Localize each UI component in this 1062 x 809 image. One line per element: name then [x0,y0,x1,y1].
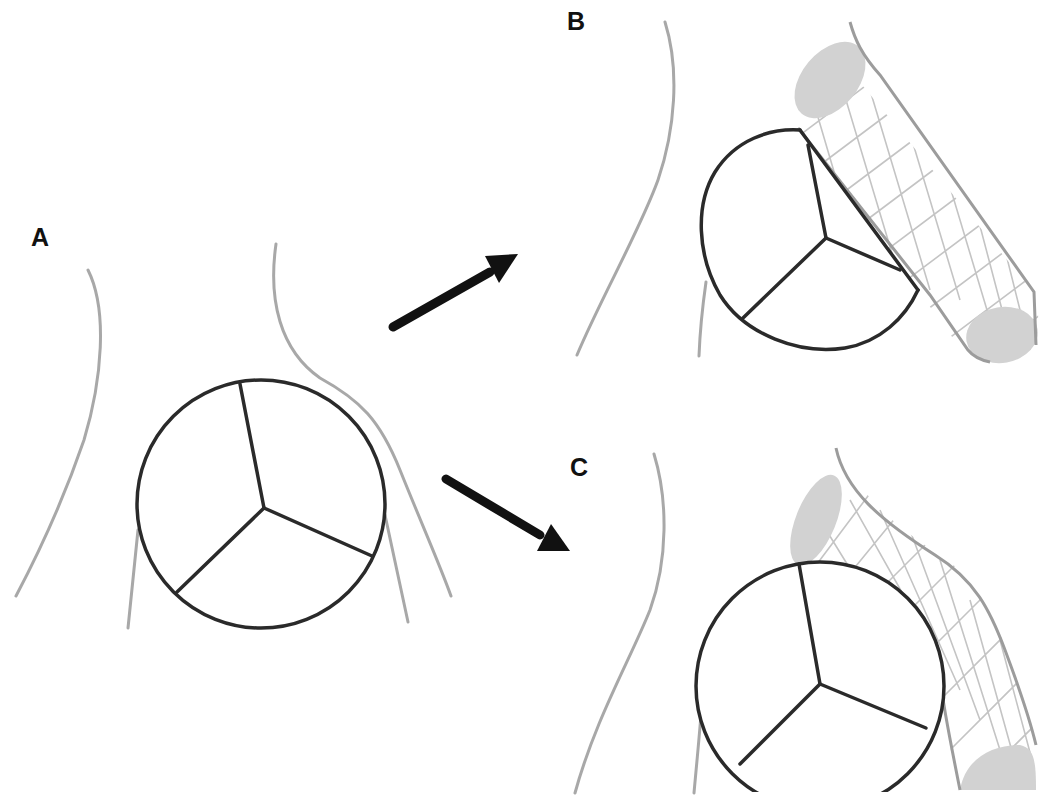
panel-b-displaced-leaflet-edge [800,130,918,290]
valve-stent-diagram: A B [0,0,1062,809]
panel-c-left-aortic-wall [575,454,664,793]
panel-c: C [570,448,1060,809]
panel-a-valve-annulus [137,380,385,628]
panel-b-stent-distal-cap [962,301,1043,369]
panel-b-stent [780,22,1060,390]
panel-c-label: C [570,453,588,481]
panel-c-valve [696,562,944,809]
panel-a-valve [137,380,385,628]
panel-c-bottom-crop [700,792,950,809]
panel-a-lower-right-wall [385,515,408,622]
panel-a-lower-left-wall [128,530,138,628]
panel-a-left-aortic-wall [16,270,100,596]
panel-b: B [567,7,1060,390]
panel-a-label: A [31,223,49,251]
panel-b-lower-left-wall [699,282,706,356]
panel-a: A [16,223,451,628]
panel-b-label: B [567,7,585,35]
panel-c-stent-distal-cap [960,745,1036,790]
panel-b-stent-proximal-cap [780,28,879,131]
arrow-to-b [393,254,518,327]
arrow-to-c [446,479,570,551]
panel-b-left-aortic-wall [577,22,674,355]
panel-b-commissure-left [743,238,826,318]
panel-b-stent-outer-wall [850,22,1036,345]
